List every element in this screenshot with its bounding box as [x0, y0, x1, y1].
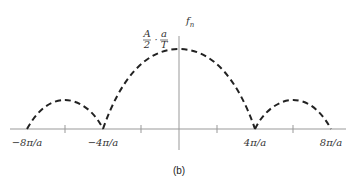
svg-text:2: 2 — [143, 39, 150, 50]
spectrum-figure: fn A 2 · a T −8π/a −4π/a 4π/a 8π/a (b) — [0, 0, 360, 182]
x-tick-label-neg4pi: −4π/a — [88, 137, 119, 148]
left-side-lobe — [27, 100, 103, 129]
y-axis-label: fn — [185, 15, 195, 29]
svg-text:a: a — [161, 28, 167, 39]
svg-text:A: A — [142, 28, 150, 39]
x-tick-label-neg8pi: −8π/a — [12, 137, 43, 148]
svg-text:·: · — [154, 34, 157, 45]
x-tick-label-8pi: 8π/a — [320, 137, 342, 148]
x-tick-label-4pi: 4π/a — [243, 137, 266, 148]
figure-caption: (b) — [173, 165, 185, 176]
peak-value-label: A 2 · a T — [142, 28, 168, 50]
right-side-lobe — [255, 100, 331, 129]
svg-text:T: T — [161, 39, 169, 50]
